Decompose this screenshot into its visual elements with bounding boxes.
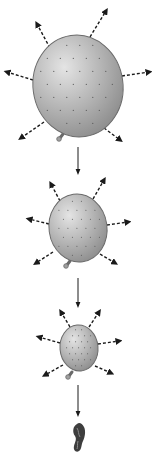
gas-particle [58, 246, 59, 247]
gas-particle [58, 210, 59, 211]
gas-particle [105, 71, 106, 72]
gas-particle [78, 335, 79, 336]
gas-particle [85, 210, 86, 211]
gas-particle [112, 84, 113, 85]
gas-particle [90, 347, 91, 348]
medium-balloon [29, 180, 128, 268]
gas-particle [76, 246, 77, 247]
gas-particle [92, 97, 93, 98]
gas-particle [94, 228, 95, 229]
gas-escape-arrow [7, 72, 33, 80]
deflated-balloon [73, 423, 85, 452]
gas-particle [94, 210, 95, 211]
balloon-knot [64, 264, 69, 269]
gas-particle [72, 335, 73, 336]
gas-particle [99, 219, 100, 220]
gas-particle [72, 201, 73, 202]
gas-particle [72, 359, 73, 360]
gas-particle [84, 335, 85, 336]
gas-particle [66, 347, 67, 348]
gas-escape-arrow [45, 365, 63, 375]
gas-particle [85, 246, 86, 247]
gas-escape-arrow [93, 180, 104, 199]
gas-particle [63, 237, 64, 238]
gas-particle [73, 84, 74, 85]
gas-particle [60, 84, 61, 85]
gas-particle [90, 359, 91, 360]
gas-particle [72, 237, 73, 238]
gas-particle [81, 341, 82, 342]
gas-particle [58, 228, 59, 229]
gas-particle [84, 347, 85, 348]
gas-escape-arrow [37, 24, 50, 48]
gas-particle [92, 71, 93, 72]
gas-particle [76, 210, 77, 211]
gas-particle [75, 329, 76, 330]
gas-particle [85, 228, 86, 229]
gas-particle [53, 71, 54, 72]
gas-particle [94, 246, 95, 247]
gas-particle [81, 353, 82, 354]
gas-particle [81, 365, 82, 366]
gas-particle [73, 110, 74, 111]
gas-particle [81, 219, 82, 220]
gas-particle [87, 353, 88, 354]
gas-particle [79, 45, 80, 46]
gas-particle [105, 97, 106, 98]
balloon-knot [57, 137, 62, 142]
gas-particle [78, 359, 79, 360]
gas-particle [75, 341, 76, 342]
gas-escape-arrow [100, 254, 115, 263]
gas-particle [92, 123, 93, 124]
gas-particle [92, 45, 93, 46]
gas-particle [99, 84, 100, 85]
gas-particle [47, 110, 48, 111]
gas-particle [99, 110, 100, 111]
balloon-knot [66, 375, 71, 380]
gas-particle [81, 329, 82, 330]
large-balloon [7, 11, 149, 143]
balloon-body [26, 29, 129, 143]
gas-particle [76, 228, 77, 229]
gas-particle [67, 228, 68, 229]
gas-particle [87, 341, 88, 342]
gas-particle [90, 237, 91, 238]
gas-particle [72, 347, 73, 348]
gas-particle [40, 71, 41, 72]
gas-particle [53, 97, 54, 98]
gas-escape-arrow [95, 366, 111, 373]
gas-particle [99, 58, 100, 59]
gas-particle [73, 58, 74, 59]
gas-particle [75, 353, 76, 354]
gas-particle [99, 237, 100, 238]
gas-escape-arrow [21, 122, 44, 138]
gas-particle [79, 97, 80, 98]
gas-escape-arrow [90, 11, 106, 37]
gas-particle [78, 347, 79, 348]
gas-escape-arrow [36, 252, 53, 263]
gas-particle [60, 58, 61, 59]
gas-particle [66, 123, 67, 124]
gas-particle [63, 219, 64, 220]
gas-particle [67, 246, 68, 247]
gas-escape-arrow [29, 219, 49, 224]
gas-particle [81, 201, 82, 202]
gas-particle [84, 359, 85, 360]
gas-escape-arrow [51, 184, 60, 201]
gas-particle [67, 210, 68, 211]
gas-particle [86, 84, 87, 85]
gas-particle [79, 71, 80, 72]
gas-particle [81, 255, 82, 256]
gas-particle [90, 219, 91, 220]
gas-particle [86, 58, 87, 59]
gas-escape-arrow [107, 222, 128, 225]
gas-particle [60, 110, 61, 111]
gas-particle [66, 97, 67, 98]
gas-escape-arrow [98, 341, 119, 344]
balloon-deflation-diagram [0, 0, 159, 460]
gas-particle [72, 255, 73, 256]
gas-escape-arrow [89, 312, 99, 327]
gas-particle [81, 237, 82, 238]
gas-particle [86, 110, 87, 111]
gas-particle [47, 58, 48, 59]
